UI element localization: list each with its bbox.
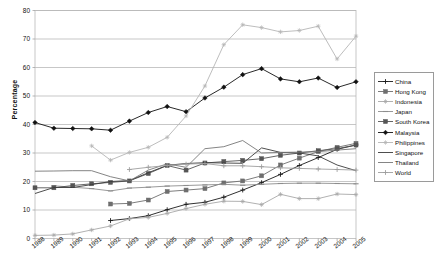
legend-swatch-icon <box>377 77 394 86</box>
legend-label: World <box>395 169 411 176</box>
legend-swatch-icon <box>377 138 394 147</box>
y-tick-label: 40 <box>8 121 30 128</box>
legend-swatch-icon <box>377 97 394 106</box>
legend-label: Hong Kong <box>395 88 426 95</box>
y-tick-label: 50 <box>8 92 30 99</box>
legend-label: Thailand <box>395 159 419 166</box>
y-tick-label: 20 <box>8 178 30 185</box>
legend-label: Japan <box>395 108 412 115</box>
legend-item: Hong Kong <box>377 86 429 96</box>
legend-item: Singapore <box>377 147 429 157</box>
legend-item: Indonesia <box>377 96 429 106</box>
y-tick-label: 30 <box>8 149 30 156</box>
legend-swatch-icon <box>377 128 394 137</box>
legend-item: World <box>377 168 429 178</box>
legend-label: Malaysia <box>395 129 419 136</box>
chart-legend: ChinaHong KongIndonesiaJapanSouth KoreaM… <box>374 72 434 182</box>
legend-item: Thailand <box>377 158 429 168</box>
legend-label: China <box>395 78 411 85</box>
y-tick-label: 0 <box>8 235 30 242</box>
legend-item: Philippines <box>377 137 429 147</box>
legend-label: Philippines <box>395 139 425 146</box>
y-tick-label: 10 <box>8 206 30 213</box>
legend-label: Indonesia <box>395 98 422 105</box>
legend-swatch-icon <box>377 158 394 167</box>
chart-container: Percentage 01020304050607080 19881989199… <box>0 0 444 269</box>
legend-swatch-icon <box>377 107 394 116</box>
legend-item: Malaysia <box>377 127 429 137</box>
legend-swatch-icon <box>377 117 394 126</box>
y-tick-label: 70 <box>8 35 30 42</box>
legend-item: China <box>377 76 429 86</box>
y-tick-label: 60 <box>8 64 30 71</box>
y-tick-label: 80 <box>8 7 30 14</box>
legend-swatch-icon <box>377 168 394 177</box>
legend-item: Japan <box>377 107 429 117</box>
legend-swatch-icon <box>377 87 394 96</box>
legend-swatch-icon <box>377 148 394 157</box>
legend-item: South Korea <box>377 117 429 127</box>
legend-label: Singapore <box>395 149 423 156</box>
legend-label: South Korea <box>395 118 429 125</box>
